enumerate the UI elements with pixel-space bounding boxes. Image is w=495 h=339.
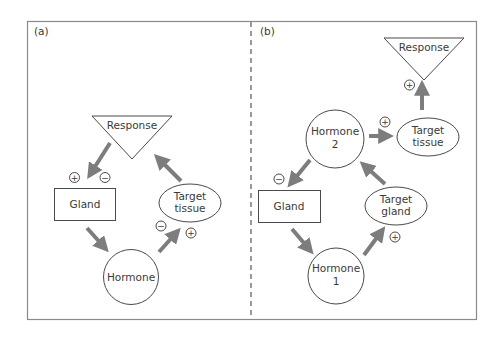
svg-text:−: − — [157, 221, 165, 231]
hormone-2-node: Hormone 2 — [306, 110, 364, 168]
minus-sign-icon: − — [274, 174, 284, 184]
hormone-1-node: Hormone 1 — [308, 248, 364, 304]
arrow-hormone2-to-gland-icon — [292, 160, 310, 182]
plus-sign-icon: + — [70, 173, 80, 183]
gland-label-b: Gland — [274, 200, 305, 212]
target-tissue-label-b-2: tissue — [412, 136, 443, 148]
arrow-hormone1-to-target-gland-icon — [364, 232, 381, 255]
svg-text:+: + — [391, 232, 399, 242]
target-tissue-node-a: Target tissue — [159, 184, 221, 222]
arrow-response-to-gland-icon — [91, 143, 110, 173]
gland-label-a: Gland — [70, 198, 101, 210]
target-tissue-label-a-1: Target — [173, 190, 206, 202]
hormone-1-label-2: 1 — [333, 275, 340, 287]
plus-sign-icon: + — [380, 117, 390, 127]
hormone-1-label-1: Hormone — [312, 262, 360, 274]
svg-text:+: + — [381, 117, 389, 127]
hormone-label-a: Hormone — [107, 271, 155, 283]
response-label-a: Response — [107, 119, 157, 131]
svg-text:−: − — [101, 173, 109, 183]
target-gland-label-2: gland — [381, 205, 410, 217]
arrow-gland-to-hormone1-icon — [292, 229, 309, 249]
target-tissue-label-a-2: tissue — [174, 202, 205, 214]
plus-sign-icon: + — [186, 228, 196, 238]
arrow-gland-to-hormone-icon — [87, 228, 104, 247]
arrow-target-gland-to-hormone2-icon — [365, 166, 385, 184]
response-label-b: Response — [399, 41, 449, 53]
arrow-tissue-to-response-icon — [159, 159, 181, 181]
minus-sign-icon: − — [156, 221, 166, 231]
svg-text:−: − — [275, 174, 283, 184]
plus-sign-icon: + — [390, 232, 400, 242]
endocrine-feedback-diagram: (a) Response Gland Target tissue Hormone — [0, 0, 495, 339]
plus-sign-icon: + — [405, 80, 415, 90]
target-gland-label-1: Target — [379, 193, 412, 205]
minus-sign-icon: − — [100, 173, 110, 183]
panel-b-label: (b) — [260, 25, 275, 37]
target-gland-node: Target gland — [365, 187, 427, 225]
svg-text:+: + — [71, 173, 79, 183]
hormone-node-a: Hormone — [104, 250, 159, 305]
target-tissue-node-b: Target tissue — [397, 118, 459, 156]
hormone-2-label-2: 2 — [332, 138, 339, 150]
target-tissue-label-b-1: Target — [411, 124, 444, 136]
panel-a-label: (a) — [34, 25, 49, 37]
svg-text:+: + — [406, 80, 414, 90]
panel-b: (b) Response Hormone 2 Target tissue Gla… — [259, 25, 465, 304]
svg-text:+: + — [187, 228, 195, 238]
gland-node-b: Gland — [259, 191, 321, 223]
arrow-hormone-to-tissue-icon — [159, 233, 176, 252]
hormone-2-label-1: Hormone — [311, 125, 359, 137]
panel-a: (a) Response Gland Target tissue Hormone — [34, 25, 221, 305]
response-node-b: Response — [384, 38, 464, 80]
gland-node-a: Gland — [55, 189, 116, 221]
